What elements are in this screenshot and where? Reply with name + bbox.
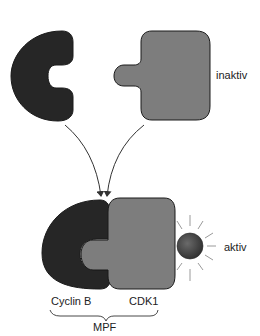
arrow-cyclin-to-complex xyxy=(65,125,101,196)
phosphate-ball xyxy=(177,233,203,259)
label-cyclin-b: Cyclin B xyxy=(51,295,91,307)
label-inaktiv: inaktiv xyxy=(216,69,247,81)
label-cdk1: CDK1 xyxy=(129,295,158,307)
cdk1-free-shape xyxy=(114,31,210,120)
label-mpf: MPF xyxy=(93,321,116,333)
cyclin-b-free-shape xyxy=(11,31,73,121)
label-aktiv: aktiv xyxy=(224,241,247,253)
mpf-brace xyxy=(50,310,158,321)
diagram-canvas xyxy=(0,0,260,336)
arrow-cdk-to-complex xyxy=(107,125,144,196)
